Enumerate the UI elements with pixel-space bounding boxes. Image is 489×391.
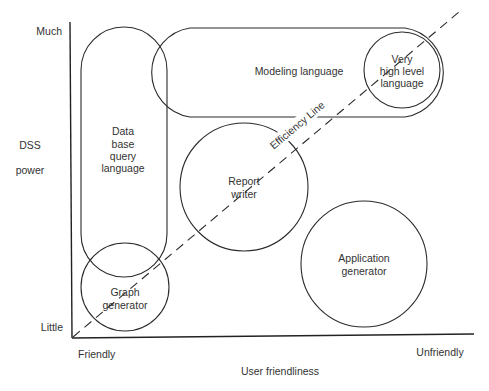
graph-generator-line1: Graph [110, 286, 139, 298]
dss-tools-diagram: Much DSS power Little Friendly Unfriendl… [0, 0, 489, 391]
report-writer-circle [180, 123, 308, 251]
database-query-language-line4: language [101, 162, 144, 174]
x-axis-title: User friendliness [241, 365, 319, 377]
application-generator-line2: generator [342, 265, 387, 277]
very-high-level-language-line2: high level [380, 65, 424, 77]
y-axis [70, 22, 72, 338]
y-axis-title-line2: power [16, 164, 45, 176]
x-axis [72, 334, 474, 338]
y-axis-title-line1: DSS [19, 139, 41, 151]
very-high-level-language-line1: Very [391, 53, 413, 65]
report-writer-line1: Report [228, 175, 260, 187]
y-axis-top-label: Much [36, 25, 62, 37]
x-axis-left-label: Friendly [78, 348, 116, 360]
database-query-language-label: Data base query language [101, 125, 144, 174]
efficiency-line-label: Efficiency Line [267, 99, 326, 152]
database-query-language-line3: query [110, 150, 137, 162]
application-generator-circle [301, 201, 427, 327]
application-generator-line1: Application [338, 252, 390, 264]
database-query-language-line2: base [112, 138, 135, 150]
graph-generator-label: Graph generator [103, 286, 148, 311]
report-writer-label: Report writer [228, 175, 260, 200]
very-high-level-language-label: Very high level language [380, 53, 424, 89]
application-generator-label: Application generator [338, 252, 390, 277]
very-high-level-language-line3: language [380, 77, 423, 89]
x-axis-right-label: Unfriendly [416, 346, 464, 358]
y-axis-bottom-label: Little [41, 321, 63, 333]
report-writer-line2: writer [230, 188, 257, 200]
graph-generator-line2: generator [103, 299, 148, 311]
database-query-language-line1: Data [112, 125, 134, 137]
modeling-language-label: Modeling language [255, 65, 344, 77]
